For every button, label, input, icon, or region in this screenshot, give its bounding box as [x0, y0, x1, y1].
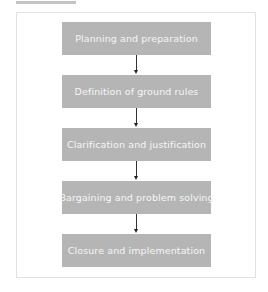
step-label: Definition of ground rules	[75, 86, 199, 97]
step-planning: Planning and preparation	[62, 22, 211, 55]
step-bargaining: Bargaining and problem solving	[62, 181, 211, 214]
step-label: Bargaining and problem solving	[59, 192, 213, 203]
step-label: Closure and implementation	[68, 245, 205, 256]
step-ground-rules: Definition of ground rules	[62, 75, 211, 108]
arrow-down-icon	[136, 214, 137, 230]
step-label: Planning and preparation	[75, 33, 198, 44]
step-closure: Closure and implementation	[62, 234, 211, 267]
step-label: Clarification and justification	[67, 139, 206, 150]
header-rule	[16, 1, 76, 4]
arrow-down-icon	[136, 55, 137, 71]
arrow-down-icon	[136, 108, 137, 124]
arrow-down-icon	[136, 161, 137, 177]
step-clarification: Clarification and justification	[62, 128, 211, 161]
